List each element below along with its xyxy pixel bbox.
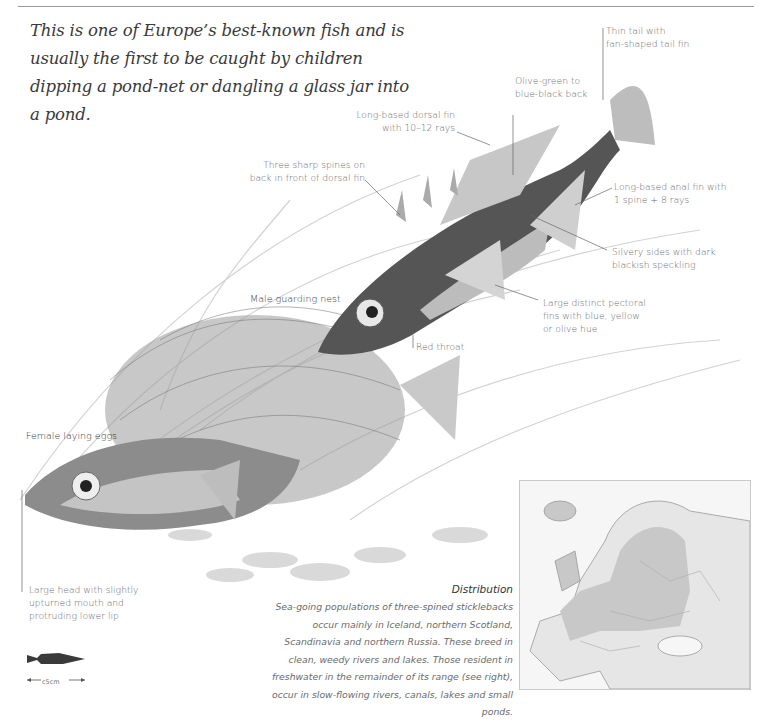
label-back-line1: Olive-green to (515, 74, 587, 87)
label-head-line3: protruding lower lip (29, 609, 139, 622)
label-sides-line2: blackish speckling (612, 258, 716, 271)
label-sides-line1: Silvery sides with dark (612, 245, 716, 258)
label-spines-line1: Three sharp spines on (215, 158, 365, 171)
label-head-line2: upturned mouth and (29, 596, 139, 609)
distribution-title: Distribution (300, 583, 513, 595)
scale-label: c5cm (42, 678, 60, 686)
pebbles (168, 527, 488, 582)
label-sides: Silvery sides with dark blackish speckli… (612, 245, 716, 271)
label-spines-line2: back in front of dorsal fin (215, 171, 365, 184)
arrow-left-icon (27, 678, 31, 682)
iceland (544, 501, 576, 521)
label-pectoral-line2: fins with blue, yellow (543, 309, 646, 322)
spine (396, 190, 406, 222)
arrow-right-icon (81, 678, 85, 682)
distribution-map (519, 480, 751, 690)
europe-map (520, 481, 750, 689)
distribution-text: Sea-going populations of three-spined st… (258, 598, 513, 721)
label-male: Male guarding nest (250, 292, 341, 305)
label-tail: Thin tail with fan-shaped tail fin (606, 24, 689, 50)
label-throat: Red throat (416, 340, 464, 353)
male-tail (610, 86, 655, 145)
label-dorsal: Long-based dorsal fin with 10–12 rays (345, 108, 455, 134)
label-dorsal-line2: with 10–12 rays (345, 121, 455, 134)
black-sea (658, 636, 702, 656)
label-back: Olive-green to blue-black back (515, 74, 587, 100)
label-pectoral-line3: or olive hue (543, 322, 646, 335)
label-tail-line1: Thin tail with (606, 24, 689, 37)
label-anal-line2: 1 spine + 8 rays (614, 193, 726, 206)
fish-silhouette-icon (27, 653, 85, 664)
label-head-line1: Large head with slightly (29, 583, 139, 596)
label-dorsal-line1: Long-based dorsal fin (345, 108, 455, 121)
female-tail (400, 355, 460, 440)
label-pectoral-line1: Large distinct pectoral (543, 296, 646, 309)
label-anal: Long-based anal fin with 1 spine + 8 ray… (614, 180, 726, 206)
label-tail-line2: fan-shaped tail fin (606, 37, 689, 50)
label-spines: Three sharp spines on back in front of d… (215, 158, 365, 184)
label-pectoral: Large distinct pectoral fins with blue, … (543, 296, 646, 335)
label-anal-line1: Long-based anal fin with (614, 180, 726, 193)
label-female: Female laying eggs (26, 429, 117, 442)
label-head: Large head with slightly upturned mouth … (29, 583, 139, 622)
label-back-line2: blue-black back (515, 87, 587, 100)
